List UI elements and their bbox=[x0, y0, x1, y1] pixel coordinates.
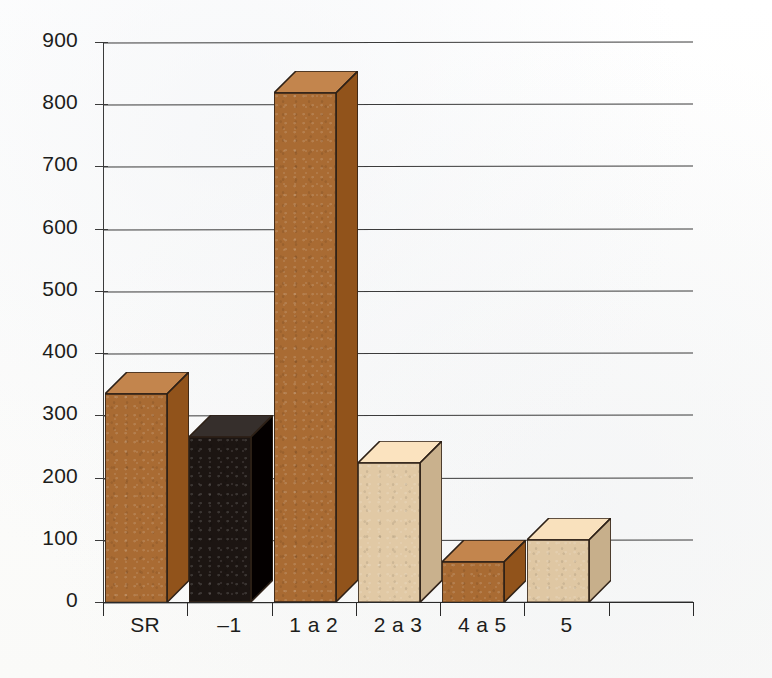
gridline-700 bbox=[103, 166, 693, 168]
bar-5 bbox=[527, 518, 611, 602]
y-tick-label-700: 700 bbox=[8, 152, 78, 176]
bar-2 bbox=[274, 71, 358, 602]
bar-2-front bbox=[274, 93, 336, 602]
bar-chart-figure: 0100200300400500600700800900 SR–11 a 22 … bbox=[0, 0, 772, 678]
bar-5-front bbox=[527, 540, 589, 602]
x-tick-mark-7 bbox=[693, 602, 694, 616]
y-tick-label-600: 600 bbox=[8, 215, 78, 239]
bar-4-front bbox=[442, 562, 504, 602]
bar-0-side bbox=[167, 372, 189, 602]
y-tick-label-500: 500 bbox=[8, 277, 78, 301]
x-tick-label-0: SR bbox=[103, 613, 187, 637]
x-tick-label-1: –1 bbox=[187, 613, 271, 637]
x-tick-label-4: 4 a 5 bbox=[440, 613, 524, 637]
bar-3-side bbox=[420, 441, 442, 602]
bar-4 bbox=[442, 540, 526, 602]
bar-4-geometry bbox=[442, 540, 526, 602]
y-tick-label-400: 400 bbox=[8, 339, 78, 363]
x-tick-label-3: 2 a 3 bbox=[356, 613, 440, 637]
bar-3 bbox=[358, 441, 442, 602]
bar-5-geometry bbox=[527, 518, 611, 602]
bar-1-front bbox=[189, 437, 251, 602]
y-tick-label-100: 100 bbox=[8, 526, 78, 550]
bar-1 bbox=[189, 415, 273, 602]
x-tick-label-5: 5 bbox=[524, 613, 608, 637]
gridline-400 bbox=[103, 352, 693, 354]
x-tick-mark-6 bbox=[609, 602, 610, 616]
x-axis-line bbox=[103, 602, 693, 603]
x-tick-label-2: 1 a 2 bbox=[272, 613, 356, 637]
gridline-500 bbox=[103, 290, 693, 292]
bar-1-geometry bbox=[189, 415, 273, 602]
gridline-600 bbox=[103, 228, 693, 230]
bar-3-geometry bbox=[358, 441, 442, 602]
y-tick-label-300: 300 bbox=[8, 401, 78, 425]
bar-1-side bbox=[251, 415, 273, 602]
gridline-800 bbox=[103, 104, 693, 106]
bar-0-front bbox=[105, 394, 167, 602]
y-tick-label-0: 0 bbox=[8, 588, 78, 612]
bar-0 bbox=[105, 372, 189, 602]
bar-2-side bbox=[336, 71, 358, 602]
y-tick-label-900: 900 bbox=[8, 28, 78, 52]
bar-0-geometry bbox=[105, 372, 189, 602]
bar-2-geometry bbox=[274, 71, 358, 602]
bar-3-front bbox=[358, 463, 420, 602]
plot-area bbox=[103, 42, 693, 602]
y-tick-label-200: 200 bbox=[8, 464, 78, 488]
y-tick-label-800: 800 bbox=[8, 90, 78, 114]
gridline-900 bbox=[103, 41, 693, 43]
